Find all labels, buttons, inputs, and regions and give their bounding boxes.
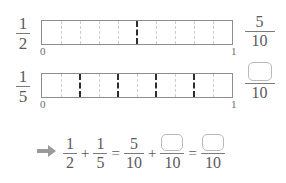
- equals-operator-two: =: [184, 145, 200, 162]
- divider-tick-light: [175, 21, 176, 44]
- divider-tick-light: [99, 21, 100, 44]
- fraction-denominator: 10: [203, 154, 223, 172]
- divider-tick-light: [61, 74, 62, 97]
- fraction-numerator: 5: [128, 135, 140, 153]
- divider-tick-bold: [79, 74, 81, 97]
- divider-tick-bold: [117, 74, 119, 97]
- equals-operator: =: [107, 145, 123, 162]
- row-fifth-left-fraction: 1 5: [10, 67, 36, 106]
- fraction-denominator: 10: [250, 32, 270, 50]
- fraction-numerator: 1: [17, 67, 30, 86]
- fraction-denominator: 5: [94, 154, 106, 172]
- answer-box-input[interactable]: [161, 134, 183, 151]
- equation-term-answer-two: 10: [201, 134, 225, 172]
- row-half-right-fraction: 5 10: [243, 13, 276, 50]
- equation-term-five-tenths: 5 10: [124, 135, 144, 172]
- fraction-numerator: 1: [94, 135, 106, 153]
- divider-tick-light: [175, 74, 176, 97]
- divider-tick-light: [118, 21, 119, 44]
- number-line-end-label: 1: [231, 45, 237, 57]
- row-fifth-right-fraction: 10: [243, 62, 276, 102]
- number-line-start-label: 0: [40, 45, 46, 57]
- equation-term-answer-one: 10: [160, 134, 184, 172]
- divider-tick-light: [213, 74, 214, 97]
- number-line-bar-fifth[interactable]: [41, 73, 233, 98]
- number-line-end-label: 1: [231, 98, 237, 110]
- fraction-denominator: 10: [250, 84, 270, 102]
- divider-tick-bold: [155, 74, 157, 97]
- plus-operator: +: [77, 145, 93, 162]
- equation-line: 1 2 + 1 5 = 5 10 + 10 = 10: [37, 134, 225, 172]
- fraction-denominator: 2: [64, 154, 76, 172]
- row-half-left-fraction: 1 2: [10, 14, 36, 53]
- divider-tick-bold: [136, 21, 138, 44]
- fraction-numerator: 1: [17, 14, 30, 33]
- fraction-denominator: 10: [124, 154, 144, 172]
- fraction-numerator: 1: [64, 135, 76, 153]
- equation-term-one-fifth: 1 5: [93, 135, 107, 172]
- divider-tick-light: [99, 74, 100, 97]
- equation-term-one-half: 1 2: [63, 135, 77, 172]
- plus-operator-two: +: [144, 145, 160, 162]
- divider-tick-light: [156, 21, 157, 44]
- answer-box-input[interactable]: [202, 134, 224, 151]
- fraction-denominator: 2: [17, 34, 30, 53]
- right-arrow-icon: [37, 143, 57, 163]
- divider-tick-light: [194, 21, 195, 44]
- divider-tick-light: [61, 21, 62, 44]
- fraction-numerator: 5: [254, 13, 266, 31]
- fraction-denominator: 10: [162, 154, 182, 172]
- fraction-denominator: 5: [17, 87, 30, 106]
- number-line-start-label: 0: [40, 98, 46, 110]
- divider-tick-light: [137, 74, 138, 97]
- divider-tick-light: [80, 21, 81, 44]
- number-line-bar-half[interactable]: [41, 20, 233, 45]
- divider-tick-light: [213, 21, 214, 44]
- divider-tick-bold: [193, 74, 195, 97]
- answer-box-input[interactable]: [248, 62, 272, 81]
